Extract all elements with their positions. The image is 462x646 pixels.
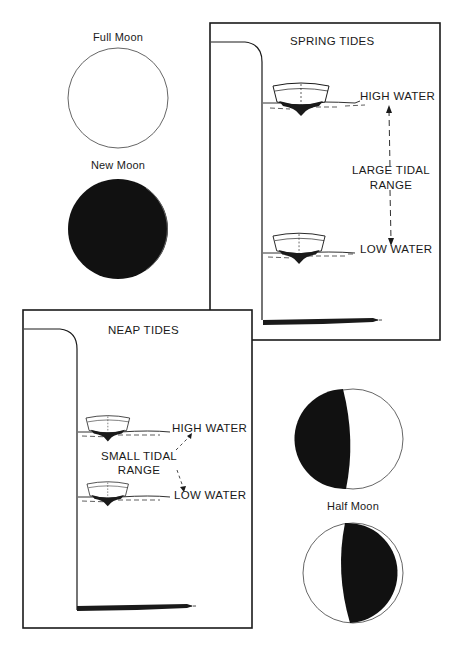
new-moon-icon — [68, 179, 168, 279]
spring-tides-title: SPRING TIDES — [290, 35, 375, 47]
neap-low-water-label: LOW WATER — [174, 489, 246, 501]
neap-range-label-line1: SMALL TIDAL — [98, 450, 180, 462]
spring-low-water-label: LOW WATER — [360, 243, 432, 255]
new-moon-label: New Moon — [68, 159, 168, 171]
half-moon-label: Half Moon — [303, 500, 403, 512]
half-moon-upper-icon — [294, 389, 403, 489]
full-moon-icon — [68, 48, 168, 148]
spring-range-label-line1: LARGE TIDAL — [350, 164, 432, 176]
neap-range-label-line2: RANGE — [98, 464, 180, 476]
neap-tides-title: NEAP TIDES — [108, 324, 179, 336]
full-moon-label: Full Moon — [68, 31, 168, 43]
neap-high-water-label: HIGH WATER — [172, 422, 247, 434]
half-moon-lower-icon — [303, 523, 403, 623]
spring-range-label-line2: RANGE — [350, 179, 432, 191]
spring-high-water-label: HIGH WATER — [360, 90, 435, 102]
